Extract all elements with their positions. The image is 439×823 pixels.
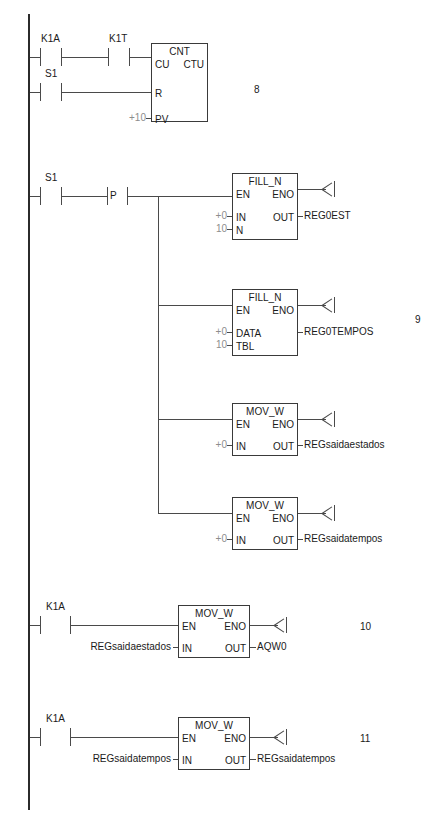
stub-fill-n-2-tbl (227, 345, 232, 346)
pin-eno: ENO (272, 305, 294, 316)
operand-mov-w-1-out: REGsaidaestados (304, 439, 385, 450)
contact-label-k1t-rung8: K1T (109, 33, 127, 44)
contact-label-k1a-rung11: K1A (46, 713, 65, 724)
pin-out: OUT (225, 643, 246, 654)
stub-mov-w-1-out (298, 445, 303, 446)
arrow-stem (286, 617, 287, 633)
contact-k1t-rung8[interactable] (108, 48, 130, 66)
rung9-wire-branch-to-mov-w-1 (158, 419, 232, 420)
operand-mov-w-2-out: REGsaidatempos (304, 533, 382, 544)
pin-out: OUT (273, 535, 294, 546)
pin-en: EN (236, 513, 250, 524)
pin-data: DATA (236, 328, 261, 339)
stub-mov-w-rung10-in (173, 647, 178, 648)
stub-mov-w-rung11-out (250, 759, 256, 760)
pin-cu: CU (155, 59, 169, 70)
operand-mov-w-rung11-out: REGsaidatempos (257, 753, 335, 764)
operand-fill-n-2-data: +0 (196, 326, 227, 337)
operand-fill-n-1-in: +0 (196, 210, 227, 221)
contact-k1a-rung8[interactable] (40, 48, 62, 66)
output-arrow-rung11 (274, 729, 287, 745)
arrow-stem (334, 505, 335, 521)
rung8-wire-rail-to-k1a (30, 57, 40, 58)
arrow-lower (322, 189, 333, 197)
block-mov-w-1-rung9[interactable]: MOV_W EN ENO IN OUT (232, 403, 298, 456)
pin-eno: ENO (272, 419, 294, 430)
stub-mov-w-2-in (227, 539, 232, 540)
output-arrow-mov-w-1 (322, 411, 335, 427)
contact-label-s1-rung9: S1 (45, 172, 57, 183)
pin-in: IN (236, 212, 246, 223)
pin-in: IN (182, 643, 192, 654)
contact-bar-left (107, 187, 108, 205)
contact-label-s1-rung8: S1 (45, 68, 57, 79)
pin-en: EN (236, 189, 250, 200)
arrow-lower (274, 737, 285, 745)
operand-fill-n-1-out: REG0EST (304, 210, 351, 221)
arrow-stem (334, 181, 335, 197)
rung-number-9: 9 (415, 314, 421, 325)
arrow-stem (286, 729, 287, 745)
pin-en: EN (182, 621, 196, 632)
block-mov-w-2-rung9[interactable]: MOV_W EN ENO IN OUT (232, 497, 298, 550)
contact-s1-rung9[interactable] (40, 187, 62, 205)
block-fill-n-1-rung9[interactable]: FILL_N EN ENO IN OUT N (232, 173, 298, 240)
stub-mov-w-1-in (227, 445, 232, 446)
rung9-wire-s1-to-p (62, 196, 107, 197)
contact-bar-left (40, 48, 41, 66)
contact-k1a-rung11[interactable] (40, 728, 71, 746)
block-title-fill-n-2: FILL_N (233, 292, 297, 303)
rung8-wire-k1t-to-cnt (130, 57, 151, 58)
operand-mov-w-rung10-out: AQW0 (257, 641, 286, 652)
rung-number-8: 8 (254, 84, 260, 95)
output-arrow-fill-n-1 (322, 181, 335, 197)
contact-k1a-rung10[interactable] (40, 616, 71, 634)
block-cnt-rung8[interactable]: CNT CU CTU R PV (151, 43, 208, 122)
stub-fill-n-1-n (227, 229, 232, 230)
arrow-lower (274, 625, 285, 633)
block-mov-w-rung10[interactable]: MOV_W EN ENO IN OUT (178, 605, 250, 658)
operand-fill-n-2-out: REG0TEMPOS (304, 326, 373, 337)
stub-mov-w-rung10-out (250, 647, 256, 648)
pin-tbl: TBL (236, 341, 254, 352)
contact-p-transition-rung9[interactable]: P (107, 187, 128, 205)
pin-eno: ENO (272, 189, 294, 200)
arrow-lower (322, 305, 333, 313)
arrow-stem (334, 411, 335, 427)
contact-label-k1a-rung10: K1A (46, 601, 65, 612)
block-fill-n-2-rung9[interactable]: FILL_N EN ENO DATA TBL (232, 289, 298, 356)
pin-in: IN (236, 441, 246, 452)
output-arrow-fill-n-2 (322, 297, 335, 313)
block-mov-w-rung11[interactable]: MOV_W EN ENO IN OUT (178, 717, 250, 770)
output-arrow-rung10 (274, 617, 287, 633)
rung9-wire-p-to-branch (128, 196, 232, 197)
block-title-mov-w-2: MOV_W (233, 500, 297, 511)
contact-bar-left (40, 83, 41, 101)
stub-fill-n-1-out (298, 216, 303, 217)
rung10-wire-k1a-to-mov-w (71, 625, 178, 626)
pin-en: EN (182, 733, 196, 744)
arrow-lower (322, 513, 333, 521)
stub-mov-w-rung11-in (173, 759, 178, 760)
stub-fill-n-2-data (227, 332, 232, 333)
stub-fill-n-2-out (298, 332, 303, 333)
block-title-mov-w-1: MOV_W (233, 406, 297, 417)
operand-fill-n-1-n: 10 (196, 223, 227, 234)
pin-r: R (155, 88, 162, 99)
block-title-cnt: CNT (152, 46, 207, 57)
pin-eno: ENO (224, 733, 246, 744)
pin-out: OUT (273, 441, 294, 452)
operand-mov-w-rung11-in: REGsaidatempos (83, 753, 171, 764)
pin-en: EN (236, 419, 250, 430)
block-title-mov-w-rung11: MOV_W (179, 720, 249, 731)
rung-number-10: 10 (360, 621, 371, 632)
output-arrow-mov-w-2 (322, 505, 335, 521)
contact-s1-rung8[interactable] (40, 83, 62, 101)
contact-bar-left (108, 48, 109, 66)
operand-mov-w-1-in: +0 (196, 439, 227, 450)
arrow-lower (322, 419, 333, 427)
rung11-wire-rail-to-k1a (30, 737, 40, 738)
rung8-wire-s1-to-cnt-r (62, 92, 151, 93)
block-title-mov-w-rung10: MOV_W (179, 608, 249, 619)
arrow-stem (334, 297, 335, 313)
